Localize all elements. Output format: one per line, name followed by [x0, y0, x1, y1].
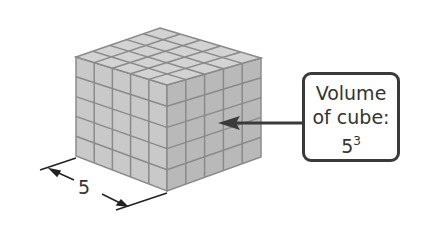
callout-line-2: of cube: — [305, 105, 397, 129]
formula-exponent: 3 — [353, 134, 361, 148]
cube — [76, 28, 261, 191]
volume-callout: Volume of cube: 53 — [302, 72, 400, 162]
callout-line-1: Volume — [305, 81, 397, 105]
formula-base: 5 — [341, 135, 353, 157]
edge-length-label: 5 — [78, 176, 90, 198]
callout-formula: 53 — [305, 129, 397, 158]
